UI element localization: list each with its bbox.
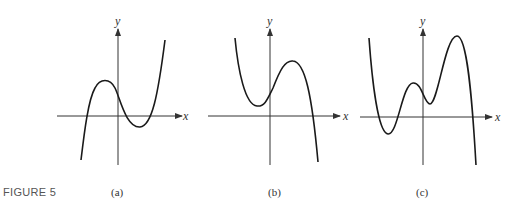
caption-a: (a) — [111, 186, 123, 198]
figure-5: y x y x x y FIGURE 5 (a) (b) (c) — [0, 0, 518, 209]
caption-b: (b) — [268, 186, 281, 198]
x-axis-label: x — [182, 109, 189, 123]
panel-c: x x y — [182, 14, 501, 165]
curve-a — [81, 40, 165, 160]
panel-a: y — [57, 14, 182, 165]
x-axis-label: x — [342, 109, 349, 123]
panel-b: x y — [208, 14, 349, 165]
polynomial-graphs: y x y x x y — [0, 0, 518, 209]
x-axis-label: x — [494, 110, 501, 124]
y-axis-label: y — [419, 14, 426, 28]
y-axis-label: y — [114, 14, 121, 28]
curve-b — [235, 38, 318, 162]
y-axis-label: y — [266, 14, 273, 28]
figure-label: FIGURE 5 — [3, 186, 56, 198]
caption-c: (c) — [416, 186, 428, 198]
